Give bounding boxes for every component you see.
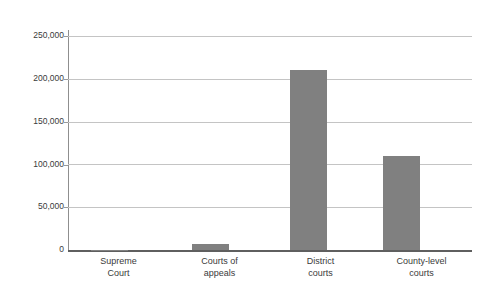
x-label-line: County-level — [371, 256, 472, 268]
x-label-courts-of-appeals: Courts of appeals — [169, 256, 270, 296]
bar-chart: 250,000 200,000 150,000 100,000 50,000 0… — [0, 0, 496, 297]
gridline-200000 — [68, 79, 472, 80]
x-label-line: Court — [68, 268, 169, 280]
y-tick-label-200000: 200,000 — [4, 74, 64, 83]
x-axis-line — [68, 250, 472, 252]
y-tick-label-100000: 100,000 — [4, 160, 64, 169]
gridline-150000 — [68, 122, 472, 123]
gridline-250000 — [68, 36, 472, 37]
x-axis-category-labels: Supreme Court Courts of appeals District… — [68, 256, 472, 296]
x-label-line: District — [270, 256, 371, 268]
x-label-line: courts — [371, 268, 472, 280]
y-tick-label-50000: 50,000 — [4, 202, 64, 211]
x-label-line: Supreme — [68, 256, 169, 268]
y-axis-tick-labels: 250,000 200,000 150,000 100,000 50,000 0 — [0, 0, 64, 297]
x-label-line: courts — [270, 268, 371, 280]
bar-courts-of-appeals — [192, 244, 229, 250]
x-label-supreme-court: Supreme Court — [68, 256, 169, 296]
x-label-district-courts: District courts — [270, 256, 371, 296]
x-label-line: appeals — [169, 268, 270, 280]
x-label-county-level-courts: County-level courts — [371, 256, 472, 296]
y-tick-label-250000: 250,000 — [4, 31, 64, 40]
plot-area — [68, 36, 472, 250]
y-tick-label-150000: 150,000 — [4, 117, 64, 126]
bar-county-level-courts — [383, 156, 420, 250]
x-label-line: Courts of — [169, 256, 270, 268]
y-tick-label-0: 0 — [4, 245, 64, 254]
bar-district-courts — [290, 70, 327, 250]
